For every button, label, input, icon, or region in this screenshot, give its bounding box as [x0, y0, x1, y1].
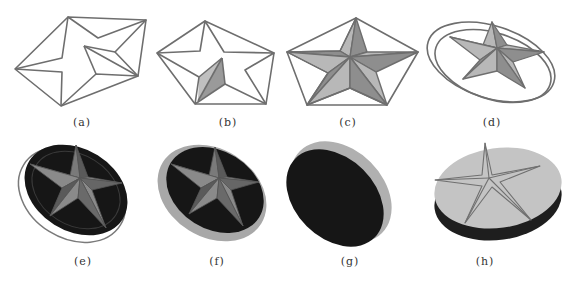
- panel-d: (d): [425, 0, 567, 145]
- panel-e: (e): [0, 140, 145, 287]
- panel-h: (h): [425, 140, 567, 287]
- panel-g: (g): [285, 140, 425, 287]
- caption-d: (d): [472, 116, 512, 129]
- caption-g: (g): [330, 255, 370, 268]
- panel-b: (b): [150, 0, 285, 145]
- caption-c: (c): [328, 116, 368, 129]
- caption-f: (f): [197, 255, 237, 268]
- caption-b: (b): [208, 116, 248, 129]
- caption-a: (a): [62, 116, 102, 129]
- panel-c: (c): [280, 0, 425, 145]
- panel-f: (f): [145, 140, 285, 287]
- panel-a: (a): [0, 0, 150, 145]
- caption-h: (h): [465, 255, 505, 268]
- caption-e: (e): [63, 255, 103, 268]
